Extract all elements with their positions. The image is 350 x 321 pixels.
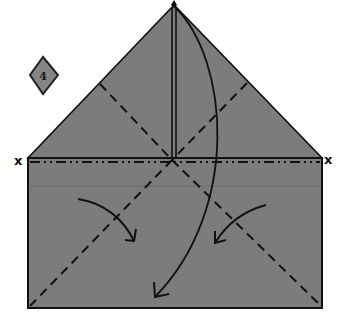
paper-triangle-flap (28, 5, 322, 158)
left-x-marker: x (14, 153, 23, 168)
step-number: 4 (39, 70, 47, 83)
paper-rectangle (28, 158, 322, 308)
origami-diagram: x x 4 (0, 0, 350, 321)
right-x-marker: x (324, 152, 333, 167)
